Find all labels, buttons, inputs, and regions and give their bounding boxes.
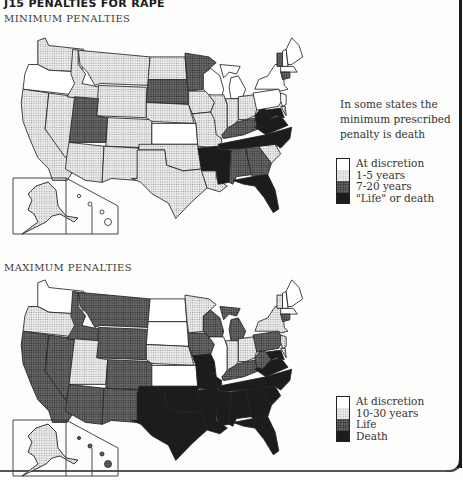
state-ma (281, 66, 298, 72)
state-ks (152, 365, 198, 386)
legend-swatch-dark (336, 419, 350, 431)
state-hi-island (105, 219, 112, 226)
state-nj (281, 335, 287, 348)
state-nm (102, 146, 139, 182)
state-ak (22, 424, 78, 476)
legend-label: "Life" or death (356, 193, 434, 205)
minimum-map-note: In some states the minimum prescribed pe… (340, 97, 462, 142)
state-me (286, 38, 303, 65)
state-pa (253, 89, 282, 110)
state-vt (277, 295, 283, 308)
maximum-map-legend: At discretion 10-30 years Life Death (336, 396, 424, 442)
minimum-penalties-map (8, 30, 308, 240)
state-wi (203, 68, 223, 97)
state-hi-island (77, 194, 80, 197)
legend-swatch-dark (336, 181, 350, 193)
state-sd (146, 80, 188, 105)
legend-label: Life (356, 419, 376, 431)
legend-item: At discretion (336, 158, 434, 170)
legend-label: At discretion (356, 396, 424, 408)
legend-label: At discretion (356, 158, 424, 170)
state-nm (102, 388, 139, 424)
legend-item: "Life" or death (336, 193, 434, 205)
legend-item: 7-20 years (336, 181, 434, 193)
state-me (286, 280, 303, 307)
state-sd (146, 322, 188, 347)
legend-item: Death (336, 431, 424, 443)
alaska-hawaii-inset (13, 420, 118, 476)
state-ms (216, 150, 231, 184)
state-hi-island (88, 202, 92, 206)
state-mt (78, 50, 150, 85)
legend-label: 7-20 years (356, 181, 412, 193)
state-vt (277, 53, 283, 66)
state-nd (148, 57, 187, 80)
state-ne (146, 103, 194, 124)
state-ms (216, 392, 231, 426)
state-ne (146, 345, 194, 366)
state-ma (281, 308, 298, 314)
state-ct (281, 314, 290, 322)
state-az (65, 384, 104, 424)
state-hi-island (100, 452, 104, 456)
legend-item: 10-30 years (336, 408, 424, 420)
state-nd (148, 299, 187, 322)
state-pa (253, 331, 282, 352)
legend-swatch-white (336, 158, 350, 170)
legend-label: Death (356, 431, 388, 443)
state-ak (22, 182, 78, 234)
state-ct (281, 72, 290, 80)
state-wi (203, 310, 223, 339)
state-ks (152, 123, 198, 144)
state-mi (220, 65, 246, 99)
state-fl (233, 175, 279, 213)
state-mi (220, 307, 246, 341)
page-frame-right-edge (459, 0, 462, 468)
legend-swatch-black (336, 193, 350, 205)
state-nj (281, 93, 287, 106)
state-mt (78, 292, 150, 327)
state-wy (97, 327, 147, 359)
figure-title: J15 PENALTIES FOR RAPE (4, 0, 165, 10)
alaska-hawaii-inset (13, 178, 118, 234)
state-hi-island (100, 210, 104, 214)
state-co (106, 360, 152, 390)
state-hi-island (77, 436, 80, 439)
state-az (65, 142, 104, 182)
state-hi-island (88, 444, 92, 448)
minimum-map-legend: At discretion 1-5 years 7-20 years "Life… (336, 158, 434, 204)
legend-swatch-light (336, 170, 350, 182)
state-fl (233, 417, 279, 455)
maximum-penalties-map (8, 272, 308, 480)
legend-item: Life (336, 419, 424, 431)
legend-swatch-white (336, 396, 350, 408)
minimum-map-title: MINIMUM PENALTIES (4, 13, 130, 24)
legend-swatch-black (336, 431, 350, 443)
state-co (106, 118, 152, 148)
state-hi-island (105, 461, 112, 468)
legend-item: At discretion (336, 396, 424, 408)
page-frame-corner (446, 458, 462, 472)
legend-swatch-light (336, 408, 350, 420)
state-wy (97, 85, 147, 117)
